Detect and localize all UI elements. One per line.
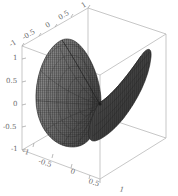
- z-tick-label-0p5: 0.5: [6, 77, 17, 85]
- z-tick-label-0: 0: [13, 100, 17, 108]
- z-tick-label-1: 1: [13, 54, 17, 62]
- z-tick-label-m1: -1: [11, 145, 18, 153]
- z-tick-1: [22, 58, 26, 59]
- y-tick-1: [88, 5, 90, 8]
- surface-plot-figure: 1 0.5 0 -0.5 -1 -1 -0.5 0 0.5 1 -1 -0.5 …: [0, 0, 178, 196]
- y-tick-label-m1: -1: [8, 38, 18, 48]
- surface-pole-point: [98, 102, 101, 105]
- x-tick-m0p5: [52, 154, 53, 158]
- z-tick-0: [22, 104, 26, 105]
- x-tick-label-0: 0: [69, 167, 76, 176]
- z-tick-0p5: [22, 81, 26, 82]
- y-tick-label-0: 0: [44, 21, 52, 30]
- x-tick-label-m0p5: -0.5: [37, 157, 52, 169]
- z-tick-m0p5: [22, 126, 26, 127]
- x-tick-label-m1: -1: [21, 147, 30, 157]
- y-tick-label-m0p5: -0.5: [21, 28, 37, 42]
- z-tick-label-m0p5: -0.5: [3, 123, 17, 131]
- y-tick-label-0p5: 0.5: [57, 9, 71, 22]
- x-tick-label-0p5: 0.5: [87, 177, 100, 188]
- surface-3d: [30, 36, 156, 152]
- x-tick-label-1: 1: [118, 185, 125, 194]
- plot-canvas: 1 0.5 0 -0.5 -1 -1 -0.5 0 0.5 1 -1 -0.5 …: [0, 0, 178, 196]
